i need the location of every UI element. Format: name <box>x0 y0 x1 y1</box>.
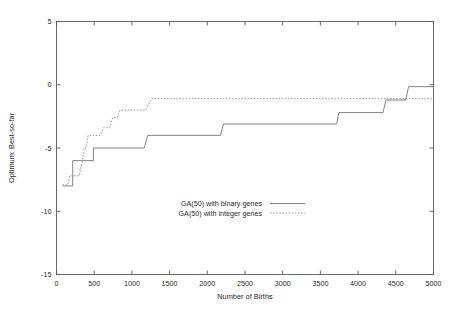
x-tick-label: 3000 <box>275 279 291 288</box>
x-tick-label: 2000 <box>199 279 215 288</box>
legend-label: GA(50) with integer genes <box>179 209 263 218</box>
x-tick-label: 500 <box>88 279 100 288</box>
x-tick-label: 3500 <box>312 279 328 288</box>
chart-figure: 0500100015002000250030003500400045005000… <box>0 0 451 311</box>
figure-background <box>0 0 451 311</box>
y-tick-label: -5 <box>45 144 51 153</box>
x-tick-label: 5000 <box>426 279 442 288</box>
x-axis-title: Number of Births <box>217 292 273 301</box>
y-axis-title: Optimum: Best-so-far <box>7 112 16 183</box>
legend-label: GA(50) with binary genes <box>181 199 263 208</box>
x-tick-label: 4000 <box>350 279 366 288</box>
x-tick-label: 1500 <box>162 279 178 288</box>
y-tick-label: 5 <box>48 17 52 26</box>
y-tick-label: -15 <box>41 270 51 279</box>
x-tick-label: 0 <box>55 279 59 288</box>
x-tick-label: 2500 <box>237 279 253 288</box>
y-tick-label: 0 <box>48 80 52 89</box>
y-tick-label: -10 <box>41 207 51 216</box>
x-tick-label: 1000 <box>124 279 140 288</box>
x-tick-label: 4500 <box>388 279 404 288</box>
